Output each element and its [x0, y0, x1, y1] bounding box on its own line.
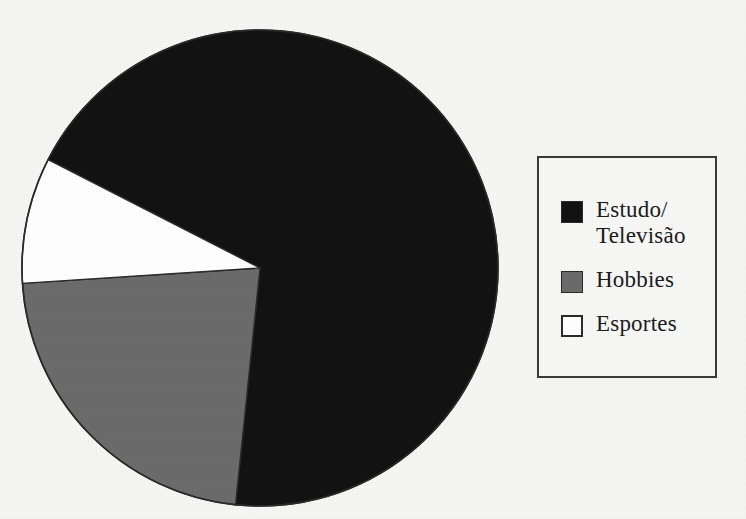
legend-item-label: Estudo/ Televisão [596, 197, 686, 249]
legend-item-hobbies[interactable]: Hobbies [561, 267, 715, 293]
legend-item-label: Esportes [596, 311, 677, 337]
legend-item-estudo-televisao[interactable]: Estudo/ Televisão [561, 197, 715, 249]
legend-item-esportes[interactable]: Esportes [561, 311, 715, 337]
pie-slice-group [22, 30, 498, 506]
outlined-square-white-swatch-icon [561, 315, 583, 337]
pie-slice[interactable] [23, 268, 261, 505]
filled-square-gray-swatch-icon [561, 271, 583, 293]
pie-chart-figure: Estudo/ Televisão Hobbies Esportes [0, 0, 746, 519]
chart-legend: Estudo/ Televisão Hobbies Esportes [537, 156, 717, 378]
legend-item-label: Hobbies [596, 267, 674, 293]
filled-square-black-swatch-icon [561, 201, 583, 223]
